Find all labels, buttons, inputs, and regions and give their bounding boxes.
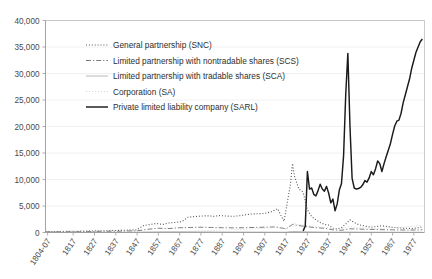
legend-label: General partnership (SNC) xyxy=(113,40,212,50)
line-chart: 05,00010,00015,00020,00025,00030,00035,0… xyxy=(0,0,432,279)
legend-label: Limited partnership with nontradable sha… xyxy=(113,56,299,66)
y-axis-tick-label: 0 xyxy=(35,229,40,238)
y-axis-tick-labels: 05,00010,00015,00020,00025,00030,00035,0… xyxy=(14,17,39,238)
y-axis-tick-label: 25,000 xyxy=(14,96,39,105)
legend-label: Corporation (SA) xyxy=(113,87,175,97)
y-axis-tick-label: 20,000 xyxy=(14,123,39,132)
y-axis-tick-label: 10,000 xyxy=(14,176,39,185)
y-axis-tick-label: 15,000 xyxy=(14,149,39,158)
legend-label: Limited partnership with tradable shares… xyxy=(113,71,285,81)
chart-container: 05,00010,00015,00020,00025,00030,00035,0… xyxy=(0,0,432,279)
y-axis-tick-label: 40,000 xyxy=(14,17,39,26)
chart-background xyxy=(0,0,432,279)
y-axis-tick-label: 30,000 xyxy=(14,70,39,79)
legend-label: Private limited liability company (SARL) xyxy=(113,102,258,112)
y-axis-tick-label: 35,000 xyxy=(14,43,39,52)
y-axis-tick-label: 5,000 xyxy=(19,202,40,211)
